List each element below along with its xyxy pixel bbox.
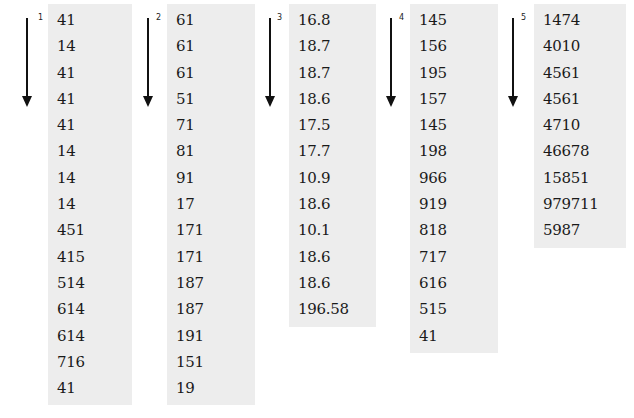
list-item: 966 [410,165,498,191]
down-arrow-icon [265,18,275,108]
list-item: 716 [48,349,132,375]
list-item: 18.7 [289,33,376,59]
list-item: 415 [48,244,132,270]
number-column: 1474 4010 4561 4561 4710 46678 15851 979… [534,4,626,248]
list-item: 41 [48,7,132,33]
list-item: 71 [167,112,255,138]
list-item: 10.1 [289,217,376,243]
list-item: 46678 [534,138,626,164]
list-item: 187 [167,296,255,322]
list-item: 61 [167,33,255,59]
list-item: 145 [410,112,498,138]
list-item: 15851 [534,165,626,191]
list-item: 151 [167,349,255,375]
list-item: 17.7 [289,138,376,164]
down-arrow-icon [386,18,396,108]
down-arrow-icon [22,18,32,108]
list-item: 18.6 [289,270,376,296]
column-label: 2 [156,13,161,22]
list-item: 41 [48,112,132,138]
list-item: 4710 [534,112,626,138]
list-item: 818 [410,217,498,243]
list-item: 61 [167,60,255,86]
list-item: 17.5 [289,112,376,138]
list-item: 51 [167,86,255,112]
list-item: 614 [48,323,132,349]
list-item: 16.8 [289,7,376,33]
list-item: 4561 [534,60,626,86]
list-item: 4010 [534,33,626,59]
list-item: 919 [410,191,498,217]
list-item: 717 [410,244,498,270]
list-item: 171 [167,244,255,270]
list-item: 614 [48,296,132,322]
list-item: 41 [48,86,132,112]
list-item: 514 [48,270,132,296]
list-item: 91 [167,165,255,191]
column-label: 4 [399,13,404,22]
list-item: 5987 [534,217,626,243]
list-item: 191 [167,323,255,349]
list-item: 41 [48,60,132,86]
list-item: 979711 [534,191,626,217]
number-column: 145 156 195 157 145 198 966 919 818 717 … [410,4,498,353]
list-item: 81 [167,138,255,164]
column-label: 5 [521,13,526,22]
list-item: 18.7 [289,60,376,86]
list-item: 14 [48,165,132,191]
list-item: 451 [48,217,132,243]
number-column: 61 61 61 51 71 81 91 17 171 171 187 187 … [167,4,255,405]
list-item: 18.6 [289,244,376,270]
list-item: 145 [410,7,498,33]
list-item: 4561 [534,86,626,112]
list-item: 156 [410,33,498,59]
list-item: 14 [48,138,132,164]
down-arrow-icon [143,18,153,108]
list-item: 616 [410,270,498,296]
list-item: 1474 [534,7,626,33]
down-arrow-icon [508,18,518,108]
column-label: 3 [277,13,282,22]
list-item: 171 [167,217,255,243]
list-item: 18.6 [289,191,376,217]
list-item: 196.58 [289,296,376,322]
number-column: 16.8 18.7 18.7 18.6 17.5 17.7 10.9 18.6 … [289,4,376,327]
list-item: 10.9 [289,165,376,191]
list-item: 41 [410,323,498,349]
number-column: 41 14 41 41 41 14 14 14 451 415 514 614 … [48,4,132,405]
list-item: 198 [410,138,498,164]
list-item: 515 [410,296,498,322]
list-item: 14 [48,33,132,59]
list-item: 187 [167,270,255,296]
list-item: 157 [410,86,498,112]
column-label: 1 [38,13,43,22]
list-item: 19 [167,375,255,401]
list-item: 41 [48,375,132,401]
list-item: 195 [410,60,498,86]
list-item: 18.6 [289,86,376,112]
list-item: 17 [167,191,255,217]
list-item: 14 [48,191,132,217]
list-item: 61 [167,7,255,33]
